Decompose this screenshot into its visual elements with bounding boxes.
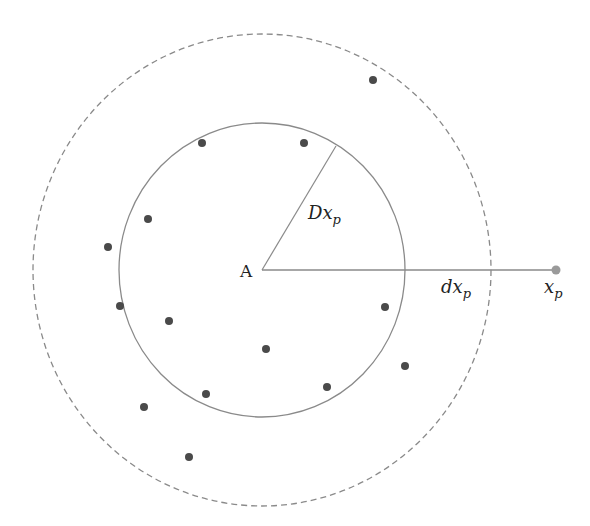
sample-points <box>104 76 409 461</box>
data-point <box>381 303 389 311</box>
data-point <box>198 139 206 147</box>
diagram-canvas: A Dxp dxp xp <box>0 0 590 526</box>
query-point <box>552 266 561 275</box>
center-label: A <box>239 261 253 281</box>
data-point <box>369 76 377 84</box>
data-point <box>300 139 308 147</box>
point-label: xp <box>544 276 563 301</box>
data-point <box>401 362 409 370</box>
data-point <box>202 390 210 398</box>
data-point <box>144 215 152 223</box>
data-point <box>104 243 112 251</box>
data-point <box>262 345 270 353</box>
data-point <box>116 302 124 310</box>
data-point <box>165 317 173 325</box>
data-point <box>140 403 148 411</box>
data-point <box>185 453 193 461</box>
radius-label: Dxp <box>307 202 342 227</box>
data-point <box>323 383 331 391</box>
distance-label: dxp <box>441 276 472 301</box>
